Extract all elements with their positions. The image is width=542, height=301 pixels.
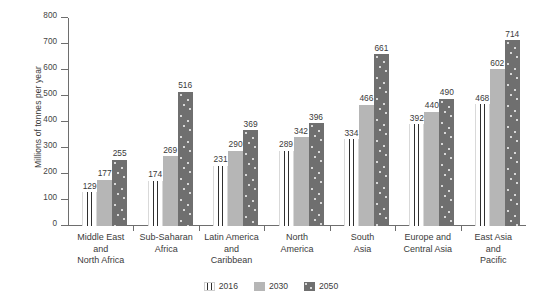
category-label: South Asia [330,232,395,255]
bar-2050 [309,123,324,226]
y-tick: 800 [61,17,68,18]
bar-value-label: 396 [305,112,327,122]
bar-chart: Millions of tonnes per year 010020030040… [0,0,542,301]
y-tick-label: 100 [43,193,57,202]
x-tick [461,226,462,231]
bar-group: 289342396 [279,18,324,226]
chart-legend: 201620302050 [0,281,542,291]
bar-2016 [475,104,490,226]
y-tick: 700 [61,43,68,44]
legend-swatch-icon [254,282,265,291]
bar-2016 [279,151,294,226]
bar-group: 468602714 [475,18,520,226]
y-tick-label: 800 [43,11,57,20]
y-tick: 100 [61,199,68,200]
y-tick-label: 600 [43,63,57,72]
bar-group: 392440490 [409,18,454,226]
y-tick-label: 300 [43,141,57,150]
bar-group: 231290369 [213,18,258,226]
bar-2050 [243,130,258,226]
bar-2016 [148,181,163,226]
y-tick-label: 500 [43,89,57,98]
y-tick: 600 [61,69,68,70]
bar-2050 [178,92,193,226]
category-label: Sub-Saharan Africa [133,232,198,255]
bar-2016 [213,166,228,226]
legend-label: 2030 [269,281,288,291]
legend-item-2016[interactable]: 2016 [204,281,238,291]
y-tick: 0 [61,225,68,226]
bar-2050 [374,54,389,226]
y-tick-label: 0 [52,219,57,228]
plot-area: 0100200300400500600700800 12917725517426… [68,18,526,226]
x-tick [264,226,265,231]
bar-2030 [97,180,112,226]
legend-swatch-icon [304,282,315,291]
category-label: North America [264,232,329,255]
y-tick: 400 [61,121,68,122]
bar-value-label: 369 [240,119,262,129]
bar-group: 129177255 [82,18,127,226]
y-axis-line [68,18,69,226]
bar-value-label: 490 [436,87,458,97]
bar-2030 [359,105,374,226]
x-tick [199,226,200,231]
y-tick: 500 [61,95,68,96]
bar-2050 [505,40,520,226]
bar-value-label: 661 [370,43,392,53]
legend-label: 2050 [319,281,338,291]
bar-2016 [409,124,424,226]
bar-2030 [228,151,243,226]
bar-group: 174269516 [148,18,193,226]
bar-value-label: 714 [501,29,523,39]
y-tick-label: 400 [43,115,57,124]
y-tick-label: 200 [43,167,57,176]
bar-value-label: 255 [109,148,131,158]
y-axis-title: Millions of tonnes per year [33,12,43,222]
x-tick [395,226,396,231]
category-label: Latin America and Caribbean [199,232,264,267]
bar-2050 [112,160,127,226]
legend-swatch-icon [204,282,215,291]
bar-2030 [163,156,178,226]
category-label: Europe and Central Asia [395,232,460,255]
bar-2030 [490,69,505,226]
bar-2030 [294,137,309,226]
x-tick [133,226,134,231]
legend-label: 2016 [219,281,238,291]
y-tick-label: 700 [43,37,57,46]
y-tick: 200 [61,173,68,174]
x-tick [330,226,331,231]
legend-item-2050[interactable]: 2050 [304,281,338,291]
bar-2030 [424,112,439,226]
y-tick: 300 [61,147,68,148]
category-label: East Asia and Pacific [461,232,526,267]
category-label: Middle East and North Africa [68,232,133,267]
bar-value-label: 516 [174,80,196,90]
bar-2016 [344,139,359,226]
bar-2016 [82,192,97,226]
legend-item-2030[interactable]: 2030 [254,281,288,291]
bar-group: 334466661 [344,18,389,226]
bar-2050 [439,99,454,226]
